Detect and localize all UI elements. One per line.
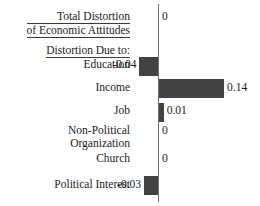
category-label-non-political-organization: Non-PoliticalOrganization [68, 124, 130, 150]
chart-container: Total Distortionof Economic Attitudes0Di… [0, 0, 260, 206]
category-label-line: Income [96, 81, 130, 94]
value-label-education: -0.04 [112, 58, 136, 71]
value-label-non-political-organization: 0 [162, 124, 168, 137]
bar-job [159, 103, 164, 122]
bar-political-interest [144, 176, 158, 195]
bar-income [159, 79, 224, 98]
category-label-church: Church [96, 152, 130, 165]
category-label-line: Distortion Due to: [46, 44, 130, 58]
category-label-line: of Economic Attitudes [27, 24, 130, 38]
category-label-line: Organization [68, 137, 130, 150]
value-label-political-interest: -0.03 [117, 178, 141, 191]
value-label-income: 0.14 [227, 81, 247, 94]
value-label-total-distortion: 0 [162, 10, 168, 23]
category-label-group-header: Distortion Due to: [46, 44, 130, 58]
category-label-income: Income [96, 81, 130, 94]
category-label-line: Job [114, 104, 130, 117]
category-label-line: Church [96, 152, 130, 165]
value-label-church: 0 [162, 152, 168, 165]
bar-education [139, 57, 158, 76]
category-label-job: Job [114, 104, 130, 117]
category-label-line: Total Distortion [27, 10, 130, 24]
value-label-job: 0.01 [167, 104, 187, 117]
category-label-line: Non-Political [68, 124, 130, 137]
category-label-total-distortion: Total Distortionof Economic Attitudes [27, 10, 130, 38]
